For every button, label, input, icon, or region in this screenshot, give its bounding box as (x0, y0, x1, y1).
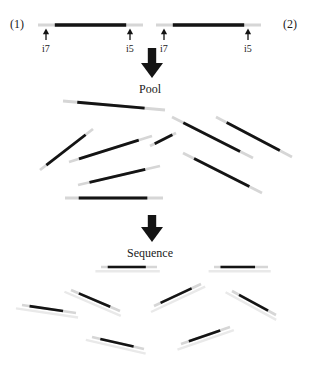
pool-frag-6 (172, 117, 253, 158)
amplicon-pooling-sequencing-diagram (0, 0, 322, 375)
primer-arrow-arrow-a2-i7 (161, 28, 167, 40)
pool-frag-4 (78, 166, 160, 185)
sample-label-sample-2: (2) (283, 18, 297, 30)
pool-fragments-panel (40, 101, 292, 198)
read-bottom-strand (151, 287, 205, 312)
read-top-strand (71, 290, 120, 311)
sequence-reads-panel (16, 267, 276, 354)
read-7 (177, 327, 233, 350)
read-6 (151, 284, 205, 312)
pool-frag-8 (183, 153, 262, 193)
amplicon-panel (38, 25, 261, 40)
read-top-strand (154, 284, 201, 306)
sample-label-sample-1: (1) (10, 18, 24, 30)
primer-arrow-arrow-a1-i7 (43, 28, 49, 40)
primer-arrow-arrow-a2-i5 (245, 28, 251, 40)
read-2 (209, 267, 271, 271)
pool-step-label: Pool (139, 83, 161, 95)
sequence-step-arrow-group (141, 215, 163, 242)
sequence-step-label: Sequence (127, 247, 173, 259)
pool-frag-9 (150, 133, 176, 146)
pool-frag-1 (63, 101, 165, 110)
read-top-strand (181, 327, 230, 344)
read-1 (95, 267, 159, 271)
sequence-arrow (141, 215, 163, 242)
read-top-strand (22, 305, 76, 313)
read-top-strand (232, 291, 276, 315)
primer-arrow-arrow-a1-i5 (127, 28, 133, 40)
read-bottom-strand (226, 292, 277, 320)
read-bottom-strand (177, 330, 233, 350)
index-label-a2-i7: i7 (160, 44, 168, 54)
pool-frag-7 (216, 117, 292, 157)
read-3 (16, 305, 78, 318)
pool-frag-3 (69, 136, 152, 162)
index-label-a1-i7: i7 (42, 44, 50, 54)
read-5 (86, 337, 146, 354)
index-label-a1-i5: i5 (126, 44, 134, 54)
pool-frag-2 (40, 129, 93, 170)
read-8 (226, 291, 277, 320)
index-label-a2-i5: i5 (244, 44, 252, 54)
